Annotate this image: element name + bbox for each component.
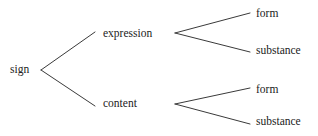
- node-expression-form: form: [256, 8, 278, 20]
- edge-expression-form: [175, 13, 250, 33]
- node-expression: expression: [103, 28, 152, 40]
- edge-content-substance: [175, 104, 250, 124]
- tree-diagram: sign expression content form substance f…: [0, 0, 318, 136]
- edge-expression-substance: [175, 33, 250, 52]
- node-content-substance: substance: [256, 116, 301, 128]
- edge-sign-expression: [41, 32, 95, 70]
- edge-sign-content: [41, 70, 95, 106]
- node-content: content: [103, 98, 137, 110]
- node-sign: sign: [10, 64, 29, 76]
- node-content-form: form: [256, 84, 278, 96]
- node-expression-substance: substance: [256, 45, 301, 57]
- edge-content-form: [175, 88, 250, 104]
